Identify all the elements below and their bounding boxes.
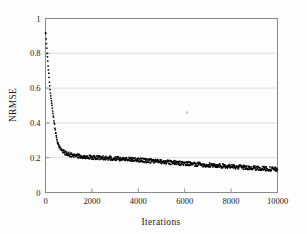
- y-tick-label-0.4: 0.4: [30, 118, 41, 128]
- y-tick-label-1: 1: [36, 14, 40, 24]
- x-axis-label: Iterations: [142, 217, 181, 227]
- x-tick-label-10000: 10000: [267, 196, 288, 206]
- y-axis-label: NRMSE: [8, 88, 18, 122]
- x-tick-label-6000: 6000: [176, 196, 193, 206]
- x-tick-label-4000: 4000: [130, 196, 147, 206]
- y-tick-label-0: 0: [36, 188, 40, 198]
- x-tick-label-0: 0: [43, 196, 47, 206]
- x-tick-label-2000: 2000: [83, 196, 100, 206]
- nrmse-vs-iterations-chart: 0200040006000800010000 00.20.40.60.81 It…: [0, 0, 307, 234]
- x-tick-label-8000: 8000: [223, 196, 240, 206]
- annotation-points: [186, 111, 188, 113]
- y-tick-label-0.8: 0.8: [30, 48, 41, 58]
- y-tick-label-0.2: 0.2: [30, 153, 41, 163]
- chart-figure: 0200040006000800010000 00.20.40.60.81 It…: [0, 0, 307, 234]
- y-tick-label-0.6: 0.6: [30, 83, 41, 93]
- outlier-point: [186, 111, 188, 113]
